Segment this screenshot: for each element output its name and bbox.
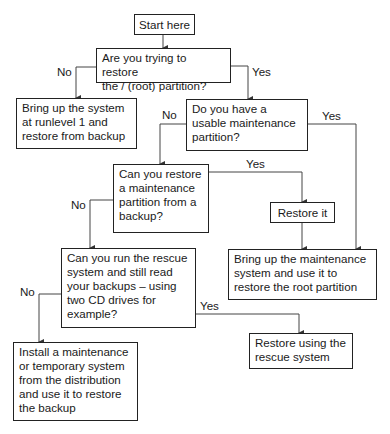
action-runlevel-restore: Bring up the system at runlevel 1 and re… <box>16 98 137 149</box>
action-install-maintenance: Install a maintenance or temporary syste… <box>13 342 138 421</box>
question-root-partition: Are you trying to restore the / (root) p… <box>96 48 231 83</box>
question-usable-maintenance: Do you have a usable maintenance partiti… <box>186 99 308 151</box>
action-restore-it: Restore it <box>270 202 335 223</box>
label-q2-no: No <box>162 108 177 121</box>
label-q1-no: No <box>57 65 72 78</box>
action-bring-up-maintenance: Bring up the maintenance system and use … <box>228 249 377 300</box>
label-q2-yes: Yes <box>322 109 341 122</box>
action-restore-rescue: Restore using the rescue system <box>249 333 353 369</box>
question-rescue-system: Can you run the rescue system and still … <box>61 248 196 328</box>
label-q3-yes: Yes <box>246 157 265 170</box>
label-q3-no: No <box>71 198 86 211</box>
label-q4-no: No <box>20 285 35 298</box>
start-node: Start here <box>134 14 195 35</box>
question-restore-maintenance: Can you restore a maintenance partition … <box>113 164 209 233</box>
label-q4-yes: Yes <box>200 299 219 312</box>
label-q1-yes: Yes <box>252 65 271 78</box>
